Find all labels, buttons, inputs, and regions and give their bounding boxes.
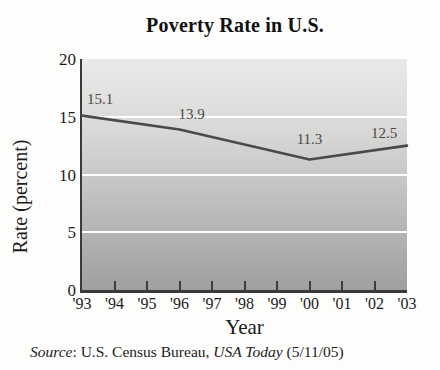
x-tick-label: '96 (170, 296, 189, 312)
poverty-line-chart-canvas (82, 59, 407, 290)
y-tick-label: 5 (34, 224, 76, 241)
y-tick-label: 15 (34, 108, 76, 125)
x-tick-label: '93 (73, 296, 92, 312)
data-label: 15.1 (87, 91, 113, 106)
source-note-italic-segment: Source (30, 343, 72, 360)
x-tick-mark (179, 281, 181, 290)
x-tick-label: '01 (333, 296, 352, 312)
y-axis-tick-labels: 05101520 (34, 59, 76, 290)
source-note-italic-segment: USA Today (213, 343, 282, 360)
x-tick-label: '99 (268, 296, 287, 312)
x-tick-mark (276, 281, 278, 290)
data-label: 11.3 (297, 132, 323, 147)
x-axis-label: Year (82, 315, 407, 340)
poverty-rate-chart: Poverty Rate in U.S. Rate (percent) 0510… (0, 0, 440, 370)
x-tick-label: '03 (398, 296, 417, 312)
chart-title: Poverty Rate in U.S. (60, 14, 410, 37)
x-tick-mark (146, 281, 148, 290)
y-axis-label: Rate (percent) (9, 81, 32, 312)
source-note-segment: : U.S. Census Bureau, (72, 343, 213, 360)
y-tick-label: 0 (34, 282, 76, 299)
x-axis-line (80, 290, 407, 293)
x-tick-mark (244, 281, 246, 290)
x-tick-mark (374, 281, 376, 290)
source-note-segment: (5/11/05) (283, 343, 344, 360)
data-label: 13.9 (178, 107, 204, 122)
x-tick-label: '98 (235, 296, 254, 312)
data-label: 12.5 (371, 125, 397, 140)
x-tick-mark (211, 281, 213, 290)
source-note: Source: U.S. Census Bureau, USA Today (5… (30, 343, 344, 361)
x-tick-mark (114, 281, 116, 290)
x-tick-mark (309, 281, 311, 290)
x-tick-mark (341, 281, 343, 290)
x-tick-label: '00 (300, 296, 319, 312)
x-tick-label: '97 (203, 296, 222, 312)
poverty-rate-line (82, 116, 407, 160)
y-tick-label: 10 (34, 166, 76, 183)
x-tick-label: '95 (138, 296, 157, 312)
x-tick-label: '02 (365, 296, 384, 312)
x-tick-label: '94 (105, 296, 124, 312)
y-tick-label: 20 (34, 51, 76, 68)
